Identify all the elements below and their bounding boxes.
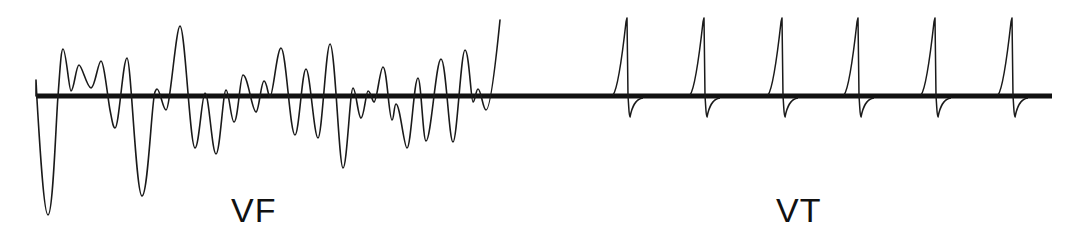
vt-complex: [998, 18, 1028, 117]
vt-complex: [768, 18, 798, 117]
vt-complex: [690, 18, 720, 117]
vt-complex: [844, 18, 874, 117]
vf-label: VF: [231, 193, 276, 227]
ecg-rhythm-figure: [0, 0, 1076, 247]
vt-waveform: [613, 18, 1028, 117]
vt-label: VT: [776, 193, 821, 227]
vt-complex: [613, 18, 643, 117]
vf-waveform: [36, 20, 500, 215]
vt-complex: [921, 18, 951, 117]
